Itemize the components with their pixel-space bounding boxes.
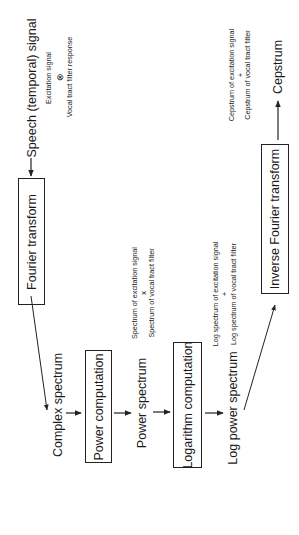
speech-signal-label: Speech (temporal) signal	[26, 19, 39, 158]
fourier-transform-label: Fourier transform	[25, 194, 38, 290]
arrow-fourier-to-complex	[31, 296, 47, 410]
cepstrum-excitation-note: Cepstrum of excitation signal	[229, 29, 236, 121]
plus-operator: +	[221, 292, 228, 296]
spectrum-excitation-note: Spectrum of excitation signal	[132, 247, 139, 339]
excitation-signal-note: Excitation signal	[46, 52, 53, 104]
cepstrum-vocal-tract-note: Cepstrum of vocal tract filter	[245, 30, 252, 119]
logarithm-computation-box: Logarithm computation	[173, 342, 202, 468]
cepstrum-label: Cepstrum	[272, 40, 285, 94]
log-spectrum-vocal-tract-note: Log spectrum of vocal tract filter	[231, 243, 238, 345]
power-spectrum-label: Power spectrum	[136, 358, 149, 448]
spectrum-vocal-tract-note: Spectrum of vocal tract filter	[149, 248, 156, 337]
inverse-fourier-transform-box: Inverse Fourier transform	[261, 144, 289, 294]
logarithm-computation-label: Logarithm computation	[181, 341, 194, 468]
convolution-operator: ⊗	[56, 73, 65, 81]
power-computation-label: Power computation	[92, 353, 105, 460]
cepstrum-flow-diagram: Speech (temporal) signal Excitation sign…	[0, 0, 299, 535]
cepstrum-plus-operator: +	[237, 73, 244, 77]
log-power-spectrum-label: Log power spectrum	[227, 351, 240, 464]
complex-spectrum-label: Complex spectrum	[52, 353, 65, 457]
vocal-tract-response-note: Vocal tract filter response	[67, 37, 74, 118]
inverse-fourier-transform-label: Inverse Fourier transform	[269, 149, 282, 289]
power-computation-box: Power computation	[85, 350, 112, 463]
arrow-logspectrum-to-inverse	[244, 305, 275, 410]
fourier-transform-box: Fourier transform	[18, 178, 45, 305]
log-spectrum-excitation-note: Log spectrum of excitation signal	[213, 242, 220, 347]
